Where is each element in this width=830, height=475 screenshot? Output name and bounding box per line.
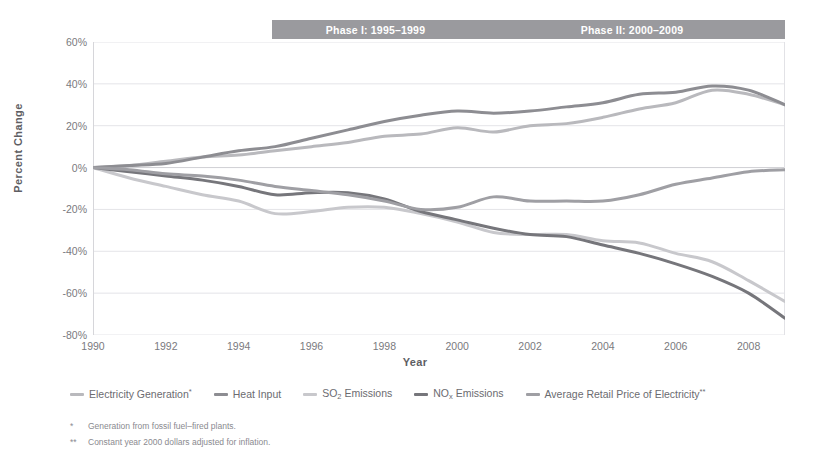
phase-2-label: Phase II: 2000–2009 [581,24,683,36]
legend-label-main: SO [322,387,337,399]
legend-item-so2_emissions[interactable]: SO2 Emissions [303,388,392,401]
x-tick-label: 2006 [664,340,687,352]
line-chart-svg [93,42,785,335]
legend-label: Heat Input [233,389,281,401]
legend-swatch-icon [303,393,317,396]
y-tick-label: -40% [41,246,87,257]
legend-label-footnote-mark: ** [700,387,706,396]
x-tick-label: 2002 [518,340,541,352]
y-tick-label: 0% [41,162,87,173]
legend-label: Electricity Generation* [89,388,192,401]
plot-area [93,42,785,335]
phase-2-banner: Phase II: 2000–2009 [479,20,785,39]
y-tick-label: -80% [41,330,87,341]
legend-label: NOx Emissions [433,388,503,401]
legend-item-retail_price[interactable]: Average Retail Price of Electricity** [526,388,706,401]
series-line-3 [93,168,785,319]
legend-label-main: NO [433,387,449,399]
chart-page: Phase I: 1995–1999 Phase II: 2000–2009 6… [0,0,830,475]
series-line-0 [93,90,785,168]
footnote-mark: * [70,418,82,434]
legend-label-footnote-mark: * [189,387,192,396]
legend-item-electricity_generation[interactable]: Electricity Generation* [70,388,192,401]
legend-label-main: Electricity Generation [89,388,189,400]
y-tick-label: 40% [41,79,87,90]
x-tick-label: 2004 [591,340,614,352]
series-line-2 [93,168,785,302]
footnote-text: Generation from fossil fuel–fired plants… [88,418,236,434]
footnotes: *Generation from fossil fuel–fired plant… [70,418,770,450]
legend-item-heat_input[interactable]: Heat Input [214,389,281,401]
x-axis-ticks: 1990199219941996199820002002200420062008 [93,340,785,356]
x-tick-label: 2008 [737,340,760,352]
series-line-1 [93,86,785,168]
legend-label-tail: Emissions [342,387,393,399]
y-axis-ticks: 60%40%20%0%-20%-40%-60%-80% [39,42,87,335]
x-tick-label: 2000 [446,340,469,352]
legend-swatch-icon [214,393,228,396]
series-line-4 [93,168,785,210]
gridlines [93,42,785,335]
phase-banner-row: Phase I: 1995–1999 Phase II: 2000–2009 [272,20,785,39]
legend-label-tail: Emissions [453,387,504,399]
legend-label-main: Average Retail Price of Electricity [545,388,700,400]
x-tick-label: 1994 [227,340,250,352]
footnote-1: *Generation from fossil fuel–fired plant… [70,418,770,434]
legend-label: SO2 Emissions [322,388,392,401]
x-tick-label: 1996 [300,340,323,352]
x-tick-label: 1992 [154,340,177,352]
x-axis-title: Year [0,356,830,368]
y-tick-label: 20% [41,120,87,131]
phase-1-label: Phase I: 1995–1999 [326,24,425,36]
legend-item-nox_emissions[interactable]: NOx Emissions [414,388,503,401]
footnote-2: **Constant year 2000 dollars adjusted fo… [70,434,770,450]
legend-label-main: Heat Input [233,388,281,400]
x-tick-label: 1990 [81,340,104,352]
series-paths [93,86,785,318]
y-tick-label: -20% [41,204,87,215]
y-tick-label: -60% [41,288,87,299]
legend-swatch-icon [70,393,84,396]
legend-swatch-icon [414,393,428,396]
x-tick-label: 1998 [373,340,396,352]
legend-label: Average Retail Price of Electricity** [545,388,706,401]
chart-legend: Electricity Generation*Heat InputSO2 Emi… [70,388,810,401]
phase-1-banner: Phase I: 1995–1999 [272,20,479,39]
y-axis-title: Percent Change [12,58,24,238]
footnote-text: Constant year 2000 dollars adjusted for … [88,434,270,450]
axis-lines [94,42,785,335]
legend-swatch-icon [526,393,540,396]
y-tick-label: 60% [41,37,87,48]
footnote-mark: ** [70,434,82,450]
